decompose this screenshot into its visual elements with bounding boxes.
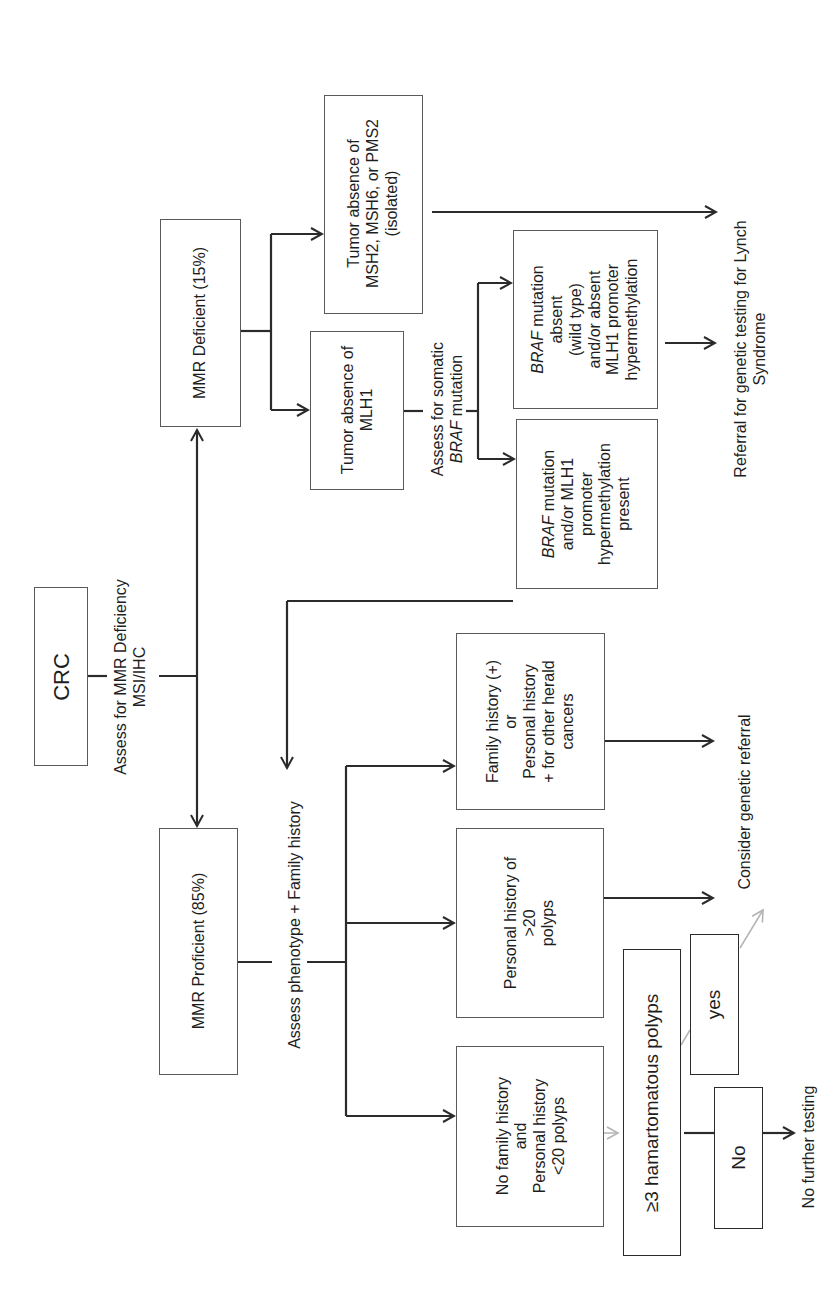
braf-present-label: BRAF mutation and/or MLH1 promoter hyper… — [516, 419, 658, 589]
personal-gt20-label: Personal history of >20 polyps — [456, 828, 604, 1018]
braf-present-gene: BRAF — [540, 516, 557, 559]
flowchart-canvas: CRC Assess for MMR Deficiency MSI/IHC MM… — [0, 0, 837, 1312]
braf-absent-gene: BRAF — [529, 331, 546, 374]
mmr-proficient-label: MMR Proficient (85%) — [179, 828, 219, 1075]
assess-braf-gene: BRAF — [448, 421, 465, 464]
braf-absent-label: BRAF mutation absent (wild type) and/or … — [513, 230, 658, 409]
consider-referral-label: Consider genetic referral — [733, 697, 757, 907]
assess-phenotype-label: Assess phenotype + Family history — [283, 770, 307, 1080]
family-history-label: Family history (+) or Personal history +… — [456, 633, 605, 810]
assess-braf-line1: Assess for somatic — [429, 342, 446, 476]
no-label: No — [715, 1087, 764, 1229]
tumor-mlh1-label: Tumor absence of MLH1 — [311, 331, 405, 490]
hamartomatous-label: ≥3 hamartomatous polyps — [623, 950, 681, 1257]
yes-label: yes — [690, 934, 739, 1075]
tumor-msh2-label: Tumor absence of MSH2, MSH6, or PMS2 (is… — [324, 94, 423, 313]
no-further-testing-label: No further testing — [797, 1072, 821, 1222]
no-family-label: No family history and Personal history <… — [457, 1046, 605, 1227]
referral-lynch-label: Referral for genetic testing for Lynch S… — [728, 204, 774, 494]
assess-braf-line2: mutation — [448, 355, 465, 421]
assess-mmr-label: Assess for MMR Deficiency MSI/IHC — [108, 547, 154, 807]
assess-braf-label: Assess for somaticBRAF mutation — [425, 339, 471, 479]
mmr-deficient-label: MMR Deficient (15%) — [180, 219, 220, 427]
crc-label: CRC — [35, 588, 89, 767]
